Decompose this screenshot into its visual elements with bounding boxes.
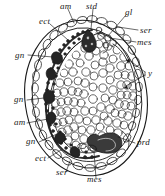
label-y-right: y	[148, 69, 152, 78]
label-ect-upper: ect	[39, 17, 50, 26]
label-gn-lower: gn	[26, 137, 36, 146]
label-gl-top: gl	[125, 8, 133, 17]
label-std-top: std	[86, 2, 97, 11]
label-mes-bottom: mes	[87, 175, 102, 184]
label-prd-right: prd	[137, 138, 150, 147]
label-mes-right: mes	[137, 38, 152, 47]
label-ser-bottom: ser	[56, 168, 68, 177]
label-am-top: am	[60, 2, 72, 11]
label-gn-upper: gn	[15, 51, 25, 60]
label-gn-mid: gn	[14, 95, 24, 104]
label-am-left: am	[14, 118, 26, 127]
label-ect-lower: ect	[35, 154, 46, 163]
label-ser-right: ser	[140, 26, 152, 35]
embryo-cross-section-figure: am std gl ect ser mes gn y gn am gn prd …	[0, 0, 165, 196]
leader-ser-right	[118, 27, 138, 30]
